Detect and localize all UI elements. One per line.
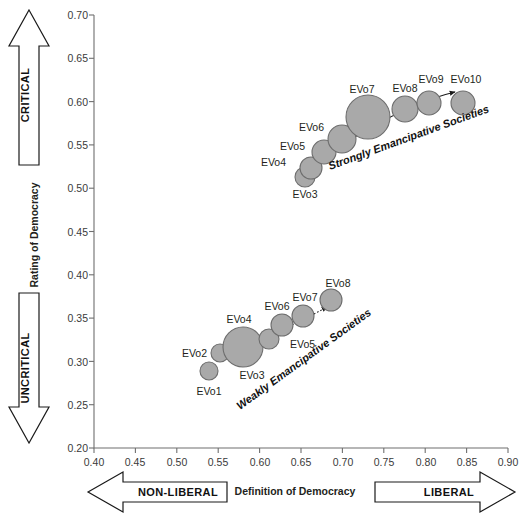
x-tick-label: 0.70 xyxy=(333,456,354,468)
x-axis-title: Definition of Democracy xyxy=(235,485,356,497)
y-tick-label: 0.70 xyxy=(68,9,89,21)
x-axis-ticks xyxy=(94,448,508,453)
x-tick-label: 0.85 xyxy=(457,456,478,468)
y-tick-label: 0.60 xyxy=(68,96,89,108)
x-tick-label: 0.80 xyxy=(416,456,437,468)
y-tick-label: 0.55 xyxy=(68,139,89,151)
y-tick-label: 0.30 xyxy=(68,356,89,368)
chart-canvas: 0.70 0.65 0.60 0.55 0.50 0.45 0.40 0.35 … xyxy=(0,0,523,517)
y-axis-tick-labels: 0.70 0.65 0.60 0.55 0.50 0.45 0.40 0.35 … xyxy=(68,9,89,454)
bubble-strong-evo7[interactable] xyxy=(346,95,390,139)
bubble-label-strong-evo9: EVo9 xyxy=(418,73,443,85)
critical-arrow-label: CRITICAL xyxy=(19,68,31,123)
critical-arrow: CRITICAL xyxy=(9,10,49,165)
bubble-weak-evo8[interactable] xyxy=(320,289,342,311)
x-tick-label: 0.75 xyxy=(374,456,395,468)
bubble-label-strong-evo4: EVo4 xyxy=(261,156,286,168)
x-tick-label: 0.65 xyxy=(291,456,312,468)
bubble-label-strong-evo7: EVo7 xyxy=(349,83,374,95)
x-axis-tick-labels: 0.40 0.45 0.50 0.55 0.60 0.65 0.70 0.75 … xyxy=(84,456,519,468)
liberal-arrow: LIBERAL xyxy=(375,472,515,512)
y-tick-label: 0.20 xyxy=(68,442,89,454)
non-liberal-arrow-label: NON-LIBERAL xyxy=(138,486,218,498)
bubble-label-weak-evo4: EVo4 xyxy=(226,313,251,325)
y-tick-label: 0.40 xyxy=(68,269,89,281)
y-axis-title: Rating of Democracy xyxy=(28,182,40,287)
bubble-label-weak-evo6: EVo6 xyxy=(264,300,289,312)
bubble-weak-evo1[interactable] xyxy=(200,362,218,380)
non-liberal-arrow: NON-LIBERAL xyxy=(88,472,227,512)
x-tick-label: 0.90 xyxy=(498,456,519,468)
y-tick-label: 0.45 xyxy=(68,226,89,238)
x-tick-label: 0.60 xyxy=(250,456,271,468)
bubble-label-strong-evo6: EVo6 xyxy=(299,121,324,133)
bubble-scatter-chart: 0.70 0.65 0.60 0.55 0.50 0.45 0.40 0.35 … xyxy=(0,0,523,517)
liberal-arrow-label: LIBERAL xyxy=(424,486,474,498)
y-tick-label: 0.65 xyxy=(68,52,89,64)
bubble-label-strong-evo10: EVo10 xyxy=(451,73,482,85)
bubble-weak-evo6[interactable] xyxy=(271,314,293,336)
bubble-label-strong-evo8: EVo8 xyxy=(392,82,417,94)
y-axis-ticks xyxy=(89,15,94,448)
axis-lines xyxy=(94,15,508,448)
y-tick-label: 0.25 xyxy=(68,399,89,411)
bubble-weak-evo7[interactable] xyxy=(292,305,314,327)
bubble-label-strong-evo5: EVo5 xyxy=(280,140,305,152)
bubble-label-weak-evo8: EVo8 xyxy=(325,277,350,289)
x-tick-label: 0.40 xyxy=(84,456,105,468)
x-tick-label: 0.55 xyxy=(208,456,229,468)
bubble-weak-evo3-evo4[interactable] xyxy=(223,327,263,367)
x-tick-label: 0.50 xyxy=(167,456,188,468)
y-tick-label: 0.35 xyxy=(68,312,89,324)
bubble-label-weak-evo1: EVo1 xyxy=(196,385,221,397)
bubble-strong-evo8[interactable] xyxy=(392,96,418,122)
x-tick-label: 0.45 xyxy=(125,456,146,468)
uncritical-arrow: UNCRITICAL xyxy=(9,293,49,443)
bubble-strong-evo9[interactable] xyxy=(417,91,441,115)
y-tick-label: 0.50 xyxy=(68,182,89,194)
bubble-label-weak-evo3: EVo3 xyxy=(239,369,264,381)
bubble-label-weak-evo2: EVo2 xyxy=(182,347,207,359)
bubble-label-strong-evo3: EVo3 xyxy=(292,188,317,200)
bubble-label-weak-evo7: EVo7 xyxy=(292,291,317,303)
uncritical-arrow-label: UNCRITICAL xyxy=(19,332,31,403)
